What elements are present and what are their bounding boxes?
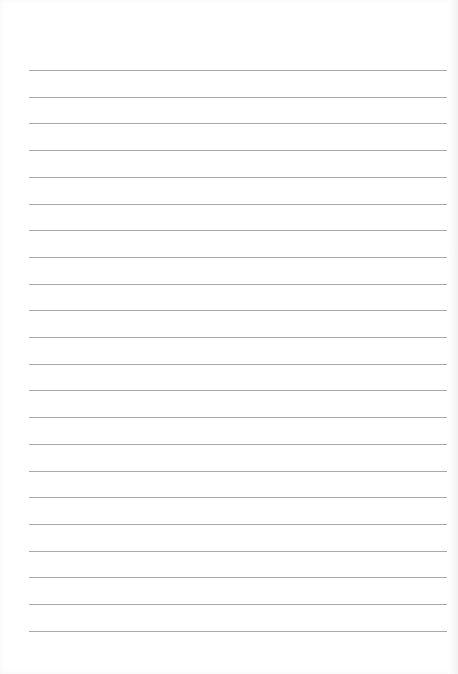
ruled-line — [29, 284, 447, 285]
ruled-line — [29, 577, 447, 578]
ruled-line — [29, 123, 447, 124]
ruled-line — [29, 471, 447, 472]
page-edge-shadow — [448, 0, 458, 674]
ruled-line — [29, 257, 447, 258]
ruled-line — [29, 524, 447, 525]
ruled-line — [29, 337, 447, 338]
ruled-line — [29, 497, 447, 498]
ruled-line — [29, 604, 447, 605]
ruled-line — [29, 97, 447, 98]
ruled-line — [29, 310, 447, 311]
ruled-line — [29, 204, 447, 205]
ruled-line — [29, 631, 447, 632]
ruled-line — [29, 230, 447, 231]
ruled-line — [29, 417, 447, 418]
ruled-line — [29, 177, 447, 178]
ruled-line — [29, 150, 447, 151]
ruled-line — [29, 390, 447, 391]
ruled-line — [29, 551, 447, 552]
ruled-line — [29, 70, 447, 71]
ruled-line — [29, 364, 447, 365]
ruled-line — [29, 444, 447, 445]
lined-paper-page — [0, 0, 458, 674]
